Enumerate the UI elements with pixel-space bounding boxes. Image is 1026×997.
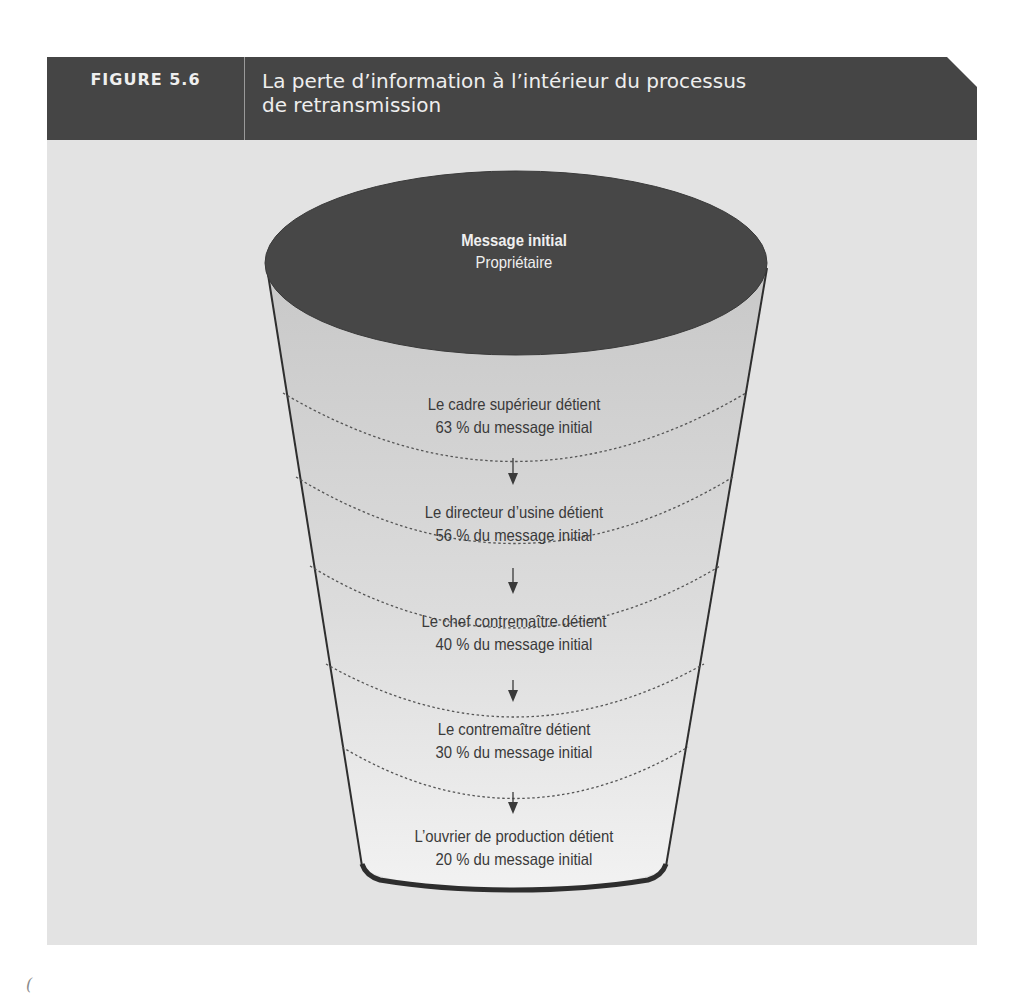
level-1-percentage: 63 % du message initial bbox=[361, 416, 667, 439]
level-label-5: L’ouvrier de production détient 20 % du … bbox=[361, 825, 667, 871]
top-message-subtitle: Propriétaire bbox=[379, 251, 649, 273]
level-2-role: Le directeur d’usine détient bbox=[361, 501, 667, 524]
top-message-label: Message initial Propriétaire bbox=[379, 229, 649, 273]
level-3-role: Le chef contremaître détient bbox=[361, 610, 667, 633]
level-4-percentage: 30 % du message initial bbox=[361, 741, 667, 764]
funnel-body bbox=[267, 268, 767, 889]
level-1-role: Le cadre supérieur détient bbox=[361, 393, 667, 416]
level-2-percentage: 56 % du message initial bbox=[361, 524, 667, 547]
level-label-1: Le cadre supérieur détient 63 % du messa… bbox=[361, 393, 667, 439]
level-5-role: L’ouvrier de production détient bbox=[361, 825, 667, 848]
level-4-role: Le contremaître détient bbox=[361, 718, 667, 741]
level-label-4: Le contremaître détient 30 % du message … bbox=[361, 718, 667, 764]
stray-mark: ( bbox=[26, 975, 32, 994]
top-message-title: Message initial bbox=[379, 229, 649, 251]
level-3-percentage: 40 % du message initial bbox=[361, 633, 667, 656]
level-label-2: Le directeur d’usine détient 56 % du mes… bbox=[361, 501, 667, 547]
level-label-3: Le chef contremaître détient 40 % du mes… bbox=[361, 610, 667, 656]
level-5-percentage: 20 % du message initial bbox=[361, 848, 667, 871]
